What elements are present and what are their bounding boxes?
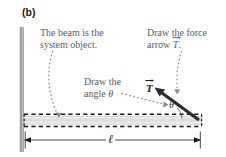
- leader-arrowhead-force: [174, 89, 180, 94]
- vector-arrow-overbar-icon: [145, 78, 154, 83]
- angle-theta-label: θ: [169, 99, 174, 110]
- callout-angle-line2-prefix: angle: [84, 88, 108, 99]
- callout-angle-line1: Draw the: [84, 76, 121, 87]
- vector-arrow-overbar-icon: [172, 35, 181, 40]
- callout-force-line2-suffix: .: [178, 39, 181, 50]
- leader-line-beam: [49, 52, 59, 116]
- force-vector-label-wrap: T: [146, 82, 153, 94]
- callout-force-vector-symbol: T: [173, 39, 179, 51]
- callout-force-T-glyph: T: [173, 39, 179, 50]
- physics-figure-panel-b: (b): [0, 0, 226, 157]
- beam-body: [24, 116, 202, 124]
- wall: [20, 27, 24, 152]
- length-label: ℓ: [106, 132, 115, 147]
- callout-force-line2-prefix: arrow: [147, 39, 173, 50]
- callout-angle: Draw theangle θ: [84, 76, 146, 99]
- callout-beam-system: The beam is the system object.: [40, 27, 135, 50]
- leader-arrowhead-angle: [163, 102, 169, 108]
- callout-angle-theta-glyph: θ: [108, 88, 113, 99]
- leader-line-force: [177, 52, 182, 92]
- force-vector-label: T: [146, 82, 153, 94]
- callout-force-arrow: Draw the forcearrow T.: [147, 27, 225, 50]
- force-vector-T-glyph: T: [146, 82, 153, 94]
